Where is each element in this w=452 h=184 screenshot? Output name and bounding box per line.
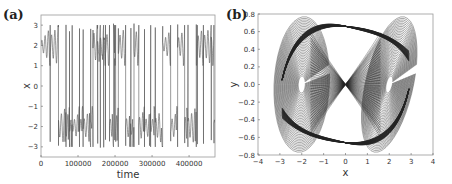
x-tick-label: 4 [431,158,436,166]
y-tick-label: 2 [34,42,38,50]
time-series-line [41,24,215,148]
y-tick-label: 0 [34,83,38,91]
y-tick-label: 0.0 [244,81,255,89]
x-tick-label: 3 [409,158,413,166]
x-axis-label: x [343,167,349,178]
y-tick-label: −0.6 [238,134,256,142]
x-tick-label: 100000 [65,160,92,168]
y-tick-label: 0.4 [244,46,256,54]
time-series-chart: 0100000200000300000400000−3−2−10123timex [0,0,230,184]
y-tick-label: −2 [28,123,38,131]
y-tick-label: 3 [34,22,38,30]
y-tick-label: 1 [34,62,38,70]
x-axis-label: time [117,169,140,180]
x-tick-label: 400000 [176,160,203,168]
y-tick-label: −1 [28,103,38,111]
x-tick-label: 1 [365,158,369,166]
y-tick-label: −0.2 [238,99,255,107]
x-tick-label: 0 [343,158,347,166]
y-tick-label: −0.4 [238,116,256,124]
x-tick-label: 2 [387,158,391,166]
x-tick-label: 200000 [102,160,129,168]
x-tick-label: 0 [39,160,43,168]
x-tick-label: −2 [297,158,307,166]
y-tick-label: −3 [28,143,38,151]
x-tick-label: −1 [318,158,328,166]
x-tick-label: 300000 [139,160,166,168]
x-tick-label: −3 [275,158,285,166]
y-tick-label: 0.2 [244,63,255,71]
plot-frame [258,14,433,155]
x-tick-label: −4 [253,158,264,166]
y-tick-label: −0.8 [238,152,255,160]
y-tick-label: 0.6 [244,28,256,36]
y-axis-label: x [21,83,32,89]
attractor-trajectory [274,17,417,152]
